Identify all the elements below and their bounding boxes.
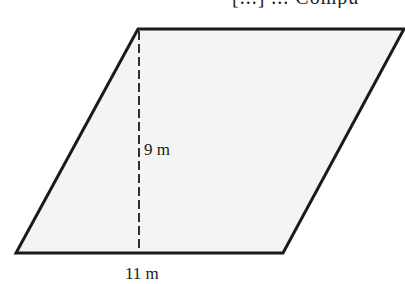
base-label: 11 m xyxy=(125,265,159,282)
height-label: 9 m xyxy=(144,141,170,158)
parallelogram-shape xyxy=(16,29,404,253)
parallelogram-figure xyxy=(0,0,405,284)
